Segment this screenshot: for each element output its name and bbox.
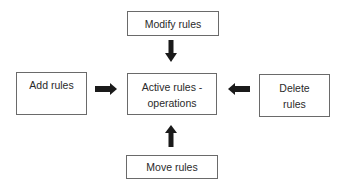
active-rules-label-line2: operations <box>128 95 216 111</box>
arrow-down-icon <box>165 40 177 63</box>
modify-rules-label: Modify rules <box>145 16 202 32</box>
move-rules-node: Move rules <box>126 155 218 179</box>
move-rules-label: Move rules <box>146 159 197 175</box>
delete-rules-label-line1: Delete <box>260 80 329 96</box>
arrow-right-icon <box>95 83 118 95</box>
active-rules-label-line1: Active rules - <box>128 79 216 95</box>
add-rules-label: Add rules <box>29 79 73 91</box>
arrow-up-icon <box>165 124 177 147</box>
active-rules-node: Active rules - operations <box>127 73 217 115</box>
delete-rules-node: Delete rules <box>259 74 330 117</box>
arrow-left-icon <box>227 83 250 95</box>
delete-rules-label-line2: rules <box>260 96 329 112</box>
modify-rules-node: Modify rules <box>127 11 219 36</box>
add-rules-node: Add rules <box>16 72 87 115</box>
